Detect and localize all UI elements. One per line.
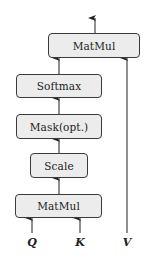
softmax-label: Softmax [37, 80, 81, 92]
attention-diagram: MatMul Softmax Mask(opt.) Scale MatMul Q… [0, 0, 148, 265]
matmul-top-node: MatMul [48, 33, 140, 58]
q-input-label: Q [27, 236, 37, 249]
scale-node: Scale [30, 153, 88, 178]
k-input-label: K [75, 236, 85, 249]
matmul-bottom-label: MatMul [37, 200, 80, 212]
v-input-label: V [123, 236, 132, 249]
softmax-node: Softmax [16, 74, 102, 98]
mask-node: Mask(opt.) [16, 114, 102, 139]
scale-label: Scale [44, 160, 73, 172]
matmul-top-label: MatMul [73, 40, 116, 52]
matmul-bottom-node: MatMul [15, 194, 102, 218]
mask-label: Mask(opt.) [30, 121, 89, 133]
